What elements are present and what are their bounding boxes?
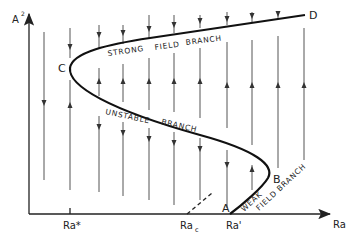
tick-label-ra-star: Ra*	[63, 220, 81, 231]
weak-field-branch-label: WEAK FIELD BRANCH	[239, 162, 308, 214]
bifurcation-diagram: A 2 Ra Ra* Ra c Ra' A B C D STRONG FIELD…	[0, 0, 350, 237]
tick-label-ra-c-sub: c	[195, 226, 199, 234]
strong-field-branch-label: STRONG FIELD BRANCH	[107, 34, 222, 58]
point-label-d: D	[309, 9, 317, 22]
tick-label-ra-c: Ra	[180, 220, 193, 231]
point-label-c: C	[58, 62, 66, 75]
point-label-a: A	[222, 202, 230, 215]
svg-text:BRANCH: BRANCH	[185, 34, 222, 47]
y-axis-label: A	[12, 14, 19, 25]
x-axis-label: Ra	[333, 219, 346, 230]
svg-text:STRONG: STRONG	[107, 44, 145, 58]
svg-text:FIELD: FIELD	[154, 40, 180, 52]
tick-label-ra-prime: Ra'	[226, 220, 242, 231]
svg-text:BRANCH: BRANCH	[161, 117, 199, 134]
y-axis-superscript: 2	[21, 10, 25, 17]
svg-text:UNSTABLE: UNSTABLE	[105, 107, 151, 125]
